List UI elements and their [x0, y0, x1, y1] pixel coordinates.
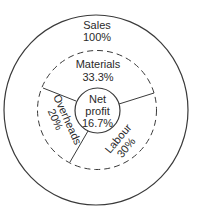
materials-value: 33.3% [82, 71, 113, 83]
divider-materials-labour [119, 93, 154, 104]
materials-label: Materials [76, 58, 121, 70]
sales-breakdown-diagram: Sales 100% Materials 33.3% Net profit 16… [0, 0, 204, 213]
net-profit-label-line1: Net [89, 93, 106, 105]
net-profit-value: 16.7% [82, 117, 113, 129]
net-profit-label-line2: profit [85, 105, 109, 117]
sales-label: Sales [83, 19, 111, 31]
sales-value: 100% [83, 31, 111, 43]
